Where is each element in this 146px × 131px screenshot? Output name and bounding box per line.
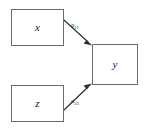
node-label-z: z (35, 98, 39, 109)
edge-label-z-to-y: a23 (71, 98, 79, 107)
edge-x-to-y-arrowhead (84, 40, 92, 46)
edge-z-to-y-arrowhead (84, 84, 92, 90)
path-diagram: x z y a21 a23 (0, 0, 146, 131)
node-box-y: y (92, 44, 138, 85)
node-box-x: x (11, 9, 64, 46)
node-label-y: y (113, 59, 118, 70)
edge-label-x-to-y-subscript: 21 (74, 25, 79, 30)
edge-label-z-to-y-subscript: 23 (74, 101, 79, 106)
node-box-z: z (11, 85, 64, 122)
node-label-x: x (35, 22, 40, 33)
edge-label-x-to-y: a21 (71, 22, 79, 31)
